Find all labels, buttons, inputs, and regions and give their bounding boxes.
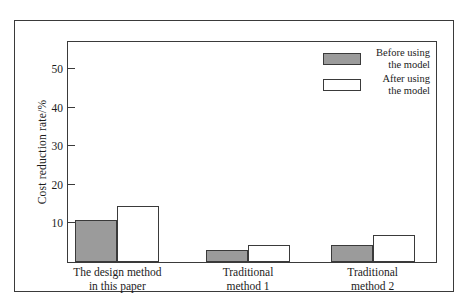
y-tick-label-30: 30 <box>52 140 64 152</box>
legend-item-after: After using the model <box>323 73 430 96</box>
legend-label-after: After using the model <box>368 73 430 96</box>
y-axis-title: Cost reduction rate/% <box>36 67 48 237</box>
bar-group-1 <box>75 42 159 262</box>
y-tick-label-40: 40 <box>52 102 64 114</box>
y-tick-label-50: 50 <box>52 63 64 75</box>
legend-swatch-after-icon <box>323 79 361 91</box>
bar-before-group-1 <box>75 220 117 262</box>
y-tick-label-10: 10 <box>52 217 64 229</box>
x-category-label-3-line2: method 2 <box>303 280 443 294</box>
figure-frame: Cost reduction rate/% 1020304050 The des… <box>14 20 454 292</box>
legend-label-before: Before using the model <box>368 47 430 70</box>
x-category-label-1: The design methodin this paper <box>47 266 187 293</box>
y-tick-label-20: 20 <box>52 179 64 191</box>
x-category-label-2-line1: Traditional <box>178 266 318 280</box>
legend-label-before-line1: Before using <box>376 47 430 58</box>
x-category-label-2-line2: method 1 <box>178 280 318 294</box>
bar-after-group-3 <box>373 235 415 262</box>
bar-before-group-3 <box>331 245 373 262</box>
x-category-label-3-line1: Traditional <box>303 266 443 280</box>
x-category-label-2: Traditionalmethod 1 <box>178 266 318 293</box>
legend-label-after-line1: After using <box>382 73 430 84</box>
bar-after-group-1 <box>117 206 159 262</box>
legend-swatch-before-icon <box>323 53 361 65</box>
bar-after-group-2 <box>248 245 290 262</box>
x-category-label-3: Traditionalmethod 2 <box>303 266 443 293</box>
plot-area: Cost reduction rate/% 1020304050 The des… <box>67 41 437 263</box>
x-category-label-1-line2: in this paper <box>47 280 187 294</box>
legend-label-after-line2: the model <box>388 85 430 96</box>
legend-item-before: Before using the model <box>323 47 430 70</box>
legend-label-before-line2: the model <box>388 59 430 70</box>
bar-group-2 <box>206 42 290 262</box>
chart-legend: Before using the model After using the m… <box>323 47 430 96</box>
x-category-label-1-line1: The design method <box>47 266 187 280</box>
bar-before-group-2 <box>206 250 248 262</box>
